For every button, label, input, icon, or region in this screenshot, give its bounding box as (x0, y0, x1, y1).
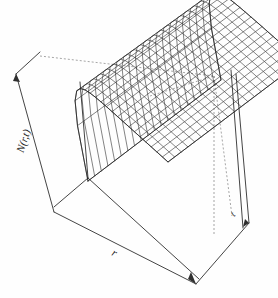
x-axis-line (54, 212, 196, 284)
z-axis-arrow (13, 74, 20, 82)
y-axis-line (196, 223, 249, 284)
z-axis-label: N(r,t) (14, 127, 34, 155)
persp-surface-svg: N(r,t) r t (0, 0, 278, 298)
axis-labels: N(r,t) r t (14, 127, 238, 259)
x-axis-label: r (110, 246, 120, 259)
y-axis-label: t (228, 210, 238, 219)
surface-plot-figure: N(r,t) r t (0, 0, 278, 298)
surface-wireframe-mesh (75, 0, 278, 181)
axis-arrowheads (13, 74, 249, 284)
